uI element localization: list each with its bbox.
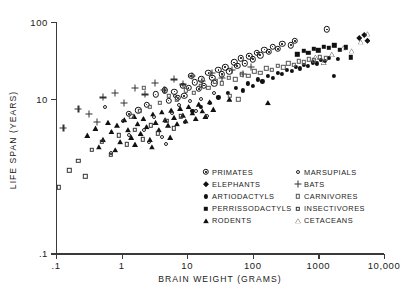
data-point-rodents — [193, 116, 199, 121]
data-point-marsupials — [164, 142, 168, 146]
data-point-marsupials — [212, 91, 216, 95]
data-point-rodents — [108, 129, 114, 134]
data-point-carnivores — [258, 71, 262, 75]
data-point-cetaceans — [349, 48, 355, 53]
data-point-primates — [257, 52, 263, 58]
legend-item-artiodactyls[interactable]: ARTIODACTYLS — [200, 190, 292, 202]
data-point-insectivores — [67, 168, 71, 172]
data-point-carnivores — [276, 64, 280, 68]
data-point-bats — [142, 91, 149, 98]
legend-item-rodents[interactable]: RODENTS — [200, 215, 292, 227]
data-point-rodents — [167, 135, 173, 140]
data-point-rodents — [96, 144, 102, 149]
data-point-elephants — [364, 38, 370, 44]
data-point-marsupials — [160, 135, 164, 139]
data-point-carnivores — [227, 75, 231, 79]
data-point-carnivores — [184, 88, 188, 92]
perrissodactyls-marker-icon — [200, 204, 212, 214]
y-tick-label: .1 — [39, 248, 48, 259]
data-point-artiodactyls — [289, 69, 293, 73]
data-point-rodents — [84, 133, 90, 138]
data-point-cetaceans — [329, 52, 335, 57]
data-point-insectivores — [89, 148, 93, 152]
data-point-carnivores — [148, 104, 152, 108]
data-point-bats — [121, 99, 128, 106]
data-point-carnivores — [175, 97, 179, 101]
data-point-carnivores — [252, 69, 256, 73]
x-tick-label: 10 — [181, 260, 193, 271]
x-tick-label: 1 — [119, 260, 125, 271]
data-point-carnivores — [157, 100, 161, 104]
legend-item-marsupials[interactable]: MARSUPIALS — [292, 166, 365, 178]
data-point-bats — [189, 72, 196, 79]
legend-item-primates[interactable]: PRIMATES — [200, 166, 292, 178]
data-point-artiodactyls — [246, 81, 250, 85]
data-point-primates — [152, 91, 158, 97]
data-point-carnivores — [191, 91, 195, 95]
data-point-carnivores — [281, 65, 285, 69]
data-point-primates — [279, 41, 285, 47]
data-point-perrissodactyls — [332, 43, 336, 47]
data-point-insectivores — [149, 123, 153, 127]
legend-item-cetaceans[interactable]: CETACEANS — [292, 215, 365, 227]
data-point-bats — [179, 81, 186, 88]
data-point-carnivores — [198, 83, 202, 87]
data-point-marsupials — [205, 114, 209, 118]
legend-item-carnivores[interactable]: CARNIVORES — [292, 190, 365, 202]
data-point-insectivores — [171, 126, 175, 130]
data-point-rodents — [125, 127, 131, 132]
data-point-marsupials — [127, 133, 131, 137]
data-point-carnivores — [213, 79, 217, 83]
legend-label: PRIMATES — [212, 168, 253, 177]
data-point-artiodactyls — [306, 64, 310, 68]
data-point-marsupials — [152, 115, 156, 119]
x-axis-line — [56, 253, 384, 254]
legend-label: MARSUPIALS — [304, 168, 357, 177]
x-tick — [253, 254, 254, 259]
data-point-bats — [209, 69, 216, 76]
data-point-rodents — [199, 108, 205, 113]
data-point-rodents — [171, 115, 177, 120]
data-point-marsupials — [188, 99, 192, 103]
data-point-bats — [86, 111, 93, 118]
legend-item-perrissodactyls[interactable]: PERRISSODACTYLS — [200, 203, 292, 215]
data-point-rodents — [114, 122, 120, 127]
data-point-carnivores — [129, 114, 133, 118]
x-tick-label: 100 — [244, 260, 262, 271]
data-point-insectivores — [76, 158, 80, 162]
data-point-marsupials — [170, 111, 174, 115]
data-point-artiodactyls — [285, 68, 289, 72]
data-point-artiodactyls — [251, 83, 255, 87]
legend-column-right: MARSUPIALSBATSCARNIVORESINSECTIVORESCETA… — [292, 166, 365, 227]
data-point-carnivores — [264, 66, 268, 70]
legend-item-insectivores[interactable]: INSECTIVORES — [292, 203, 365, 215]
legend-item-bats[interactable]: BATS — [292, 178, 365, 190]
legend-label: INSECTIVORES — [304, 204, 365, 213]
artiodactyls-marker-icon — [200, 191, 212, 201]
data-point-carnivores — [286, 61, 290, 65]
y-tick-label: 10 — [36, 94, 48, 105]
data-point-carnivores — [270, 68, 274, 72]
legend-item-elephants[interactable]: ELEPHANTS — [200, 178, 292, 190]
legend-label: PERRISSODACTYLS — [212, 204, 292, 213]
data-point-primates — [191, 79, 197, 85]
data-point-marsupials — [147, 140, 151, 144]
data-point-perrissodactyls — [306, 50, 310, 54]
data-point-carnivores — [138, 109, 142, 113]
data-point-primates — [266, 49, 272, 55]
data-point-insectivores — [57, 185, 61, 189]
data-point-rodents — [165, 122, 171, 127]
data-point-rodents — [153, 120, 159, 125]
data-point-insectivores — [83, 174, 87, 178]
data-point-carnivores — [236, 97, 240, 101]
data-point-artiodactyls — [266, 74, 270, 78]
legend-label: RODENTS — [212, 216, 252, 225]
data-point-marsupials — [194, 109, 198, 113]
y-tick-label: 100 — [30, 17, 48, 28]
marsupials-marker-icon — [292, 167, 304, 177]
data-point-bats — [219, 74, 226, 81]
x-tick — [187, 254, 188, 259]
data-point-rodents — [117, 139, 123, 144]
data-point-bats — [60, 125, 67, 132]
data-point-marsupials — [199, 97, 203, 101]
